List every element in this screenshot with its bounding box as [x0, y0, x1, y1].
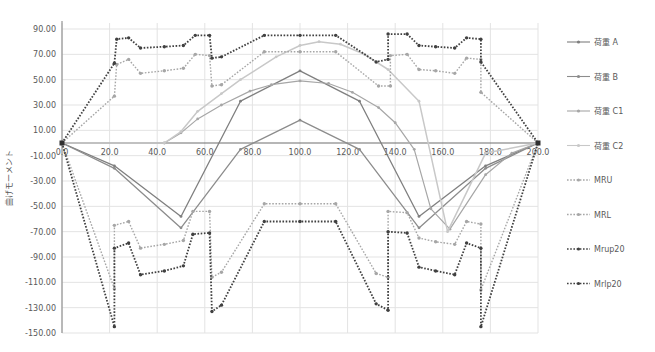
x-tick-label: 80.0 [243, 148, 261, 157]
legend-label: MRL [594, 211, 611, 220]
legend-marker-icon [577, 178, 580, 181]
legend-item: MRU [567, 176, 612, 185]
x-tick-label: 40.0 [148, 148, 166, 157]
legend-item: 荷重 B [567, 72, 618, 82]
y-axis-label: 曲げモーメント [4, 150, 14, 206]
legend-marker-icon [577, 75, 580, 78]
legend-marker-icon [577, 40, 580, 43]
legend: 荷重 A荷重 B荷重 C1荷重 C2MRUMRLMrup20Mrlp20 [567, 37, 625, 289]
bending-moment-chart: 90.0070.0050.0030.0010.00-10.00-30.00-50… [0, 0, 655, 352]
legend-item: 荷重 C2 [567, 141, 623, 151]
y-tick-label: -70.00 [30, 228, 56, 237]
y-tick-label: -90.00 [30, 253, 56, 262]
y-tick-label: -50.00 [30, 202, 56, 211]
legend-marker-icon [577, 144, 580, 147]
x-tick-label: 120.0 [336, 148, 359, 157]
legend-marker-icon [577, 213, 580, 216]
y-tick-label: 90.00 [33, 25, 56, 34]
x-tick-label: 60.0 [196, 148, 214, 157]
x-tick-label: 160.0 [431, 148, 454, 157]
legend-marker-icon [577, 109, 580, 112]
y-tick-label: 10.00 [33, 126, 56, 135]
y-tick-label: 30.00 [33, 101, 56, 110]
legend-label: MRU [594, 176, 612, 185]
legend-label: Mrup20 [594, 245, 625, 254]
endpoint-marker [60, 141, 65, 146]
y-tick-label: -110.00 [25, 278, 56, 287]
y-axis-ticks: 90.0070.0050.0030.0010.00-10.00-30.00-50… [25, 25, 56, 338]
y-tick-label: -130.00 [25, 304, 56, 313]
endpoint-marker [536, 141, 541, 146]
y-tick-label: -10.00 [30, 152, 56, 161]
legend-item: MRL [567, 211, 611, 220]
legend-item: Mrup20 [567, 245, 625, 254]
x-tick-label: 20.0 [101, 148, 119, 157]
legend-label: 荷重 C1 [594, 106, 623, 116]
x-tick-label: 100.0 [289, 148, 312, 157]
legend-item: 荷重 A [567, 37, 619, 47]
legend-label: 荷重 A [594, 37, 619, 47]
legend-label: Mrlp20 [594, 280, 622, 289]
legend-label: 荷重 B [594, 72, 618, 82]
legend-label: 荷重 C2 [594, 141, 623, 151]
legend-marker-icon [577, 247, 580, 250]
y-tick-label: 70.00 [33, 50, 56, 59]
legend-item: Mrlp20 [567, 280, 622, 289]
legend-item: 荷重 C1 [567, 106, 623, 116]
x-tick-label: 200.0 [527, 148, 550, 157]
legend-marker-icon [577, 282, 580, 285]
y-tick-label: -30.00 [30, 177, 56, 186]
y-tick-label: 50.00 [33, 76, 56, 85]
y-tick-label: -150.00 [25, 329, 56, 338]
